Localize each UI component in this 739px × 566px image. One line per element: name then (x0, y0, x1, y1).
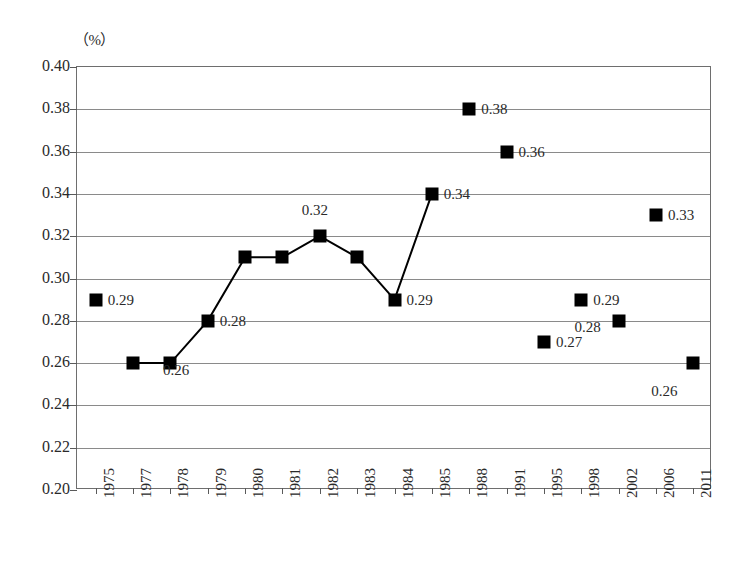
data-point-label: 0.29 (108, 291, 134, 308)
x-axis-tick-label-1975: 1975 (101, 468, 118, 498)
y-axis-tick-label: 0.22 (8, 438, 70, 456)
y-axis-tick-mark (70, 279, 77, 280)
data-point-marker (351, 251, 364, 264)
y-axis-tick-label: 0.20 (8, 480, 70, 498)
y-axis-tick-mark (70, 194, 77, 195)
y-axis-tick-mark (70, 448, 77, 449)
data-point-marker (388, 293, 401, 306)
y-axis-tick-label: 0.34 (8, 184, 70, 202)
data-point-label: 0.34 (444, 185, 470, 202)
y-axis-tick-label: 0.28 (8, 311, 70, 329)
y-axis-tick-label: 0.26 (8, 353, 70, 371)
y-axis-tick-label: 0.36 (8, 142, 70, 160)
data-point-marker (239, 251, 252, 264)
clipped-footer-caption (30, 556, 720, 565)
y-axis-tick-mark (70, 109, 77, 110)
data-point-label: 0.26 (651, 383, 677, 400)
y-axis-tick-label: 0.32 (8, 226, 70, 244)
y-axis-tick-label: 0.38 (8, 99, 70, 117)
y-axis-tick-label: 0.24 (8, 395, 70, 413)
x-axis-tick-label-2006: 2006 (661, 468, 678, 498)
data-point-marker (575, 293, 588, 306)
x-axis-tick-label-1981: 1981 (287, 468, 304, 498)
x-axis-tick-label-1980: 1980 (250, 468, 267, 498)
x-axis-tick-label-1995: 1995 (549, 468, 566, 498)
data-point-marker (612, 314, 625, 327)
x-axis-tick-label-1998: 1998 (586, 468, 603, 498)
y-axis-tick-mark (70, 405, 77, 406)
data-point-marker (463, 103, 476, 116)
data-point-marker (276, 251, 289, 264)
x-axis-tick-label-1984: 1984 (400, 468, 417, 498)
y-axis-unit-label: （%） (74, 28, 115, 49)
y-axis-tick-label: 0.30 (8, 269, 70, 287)
series-line-path (77, 67, 712, 490)
data-point-label: 0.32 (302, 202, 328, 219)
y-axis-tick-mark (70, 363, 77, 364)
data-point-label: 0.26 (163, 362, 189, 379)
x-axis-tick-label-1978: 1978 (175, 468, 192, 498)
x-axis-tick-label-1988: 1988 (474, 468, 491, 498)
data-point-label: 0.27 (556, 333, 582, 350)
data-point-marker (89, 293, 102, 306)
data-point-marker (201, 314, 214, 327)
y-axis-tick-mark (70, 321, 77, 322)
x-axis-tick-label-1985: 1985 (437, 468, 454, 498)
data-point-marker (649, 209, 662, 222)
x-axis-tick-label-1977: 1977 (138, 468, 155, 498)
data-point-marker (500, 145, 513, 158)
x-axis-tick-label-2002: 2002 (624, 468, 641, 498)
data-point-label: 0.36 (519, 143, 545, 160)
x-axis-tick-label-1979: 1979 (213, 468, 230, 498)
data-point-label: 0.28 (220, 312, 246, 329)
data-point-marker (537, 335, 550, 348)
y-axis-tick-mark (70, 152, 77, 153)
data-point-marker (127, 357, 140, 370)
y-axis-tick-mark (70, 490, 77, 491)
x-axis-tick-label-1982: 1982 (325, 468, 342, 498)
x-axis-tick-label-1991: 1991 (512, 468, 529, 498)
y-axis-tick-label: 0.40 (8, 57, 70, 75)
chart-figure: （%） 0.290.260.280.320.290.340.380.360.27… (0, 0, 739, 566)
x-axis-tick-label-1983: 1983 (362, 468, 379, 498)
data-point-marker (313, 230, 326, 243)
plot-area: 0.290.260.280.320.290.340.380.360.270.29… (76, 66, 711, 489)
data-point-label: 0.29 (593, 291, 619, 308)
data-point-label: 0.38 (481, 101, 507, 118)
data-point-label: 0.28 (575, 318, 601, 335)
series-polyline (133, 194, 432, 363)
data-point-marker (425, 187, 438, 200)
y-axis-tick-mark (70, 67, 77, 68)
data-point-marker (687, 357, 700, 370)
x-axis-tick-label-2011: 2011 (698, 469, 715, 498)
y-axis-tick-mark (70, 236, 77, 237)
data-point-label: 0.29 (407, 291, 433, 308)
data-point-label: 0.33 (668, 207, 694, 224)
